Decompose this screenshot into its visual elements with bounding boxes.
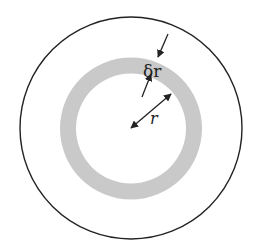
radius-label: r — [150, 109, 159, 128]
shaded-ring — [60, 58, 202, 200]
delta-r-label: δr — [143, 61, 162, 81]
circle-ring-diagram: δr r — [0, 0, 253, 251]
delta-r-outer-arrow — [158, 34, 168, 57]
